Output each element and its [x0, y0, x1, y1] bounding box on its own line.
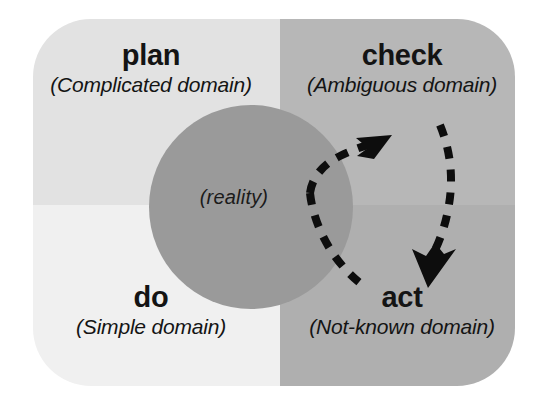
diagram-canvas: plan (Complicated domain) check (Ambiguo… [0, 0, 548, 407]
quadrant-title-check: check [278, 39, 526, 72]
quadrant-label-plan: plan (Complicated domain) [36, 39, 266, 96]
quadrant-title-plan: plan [36, 39, 266, 72]
reality-label: (reality) [149, 186, 353, 209]
quadrant-subtitle-plan: (Complicated domain) [36, 73, 266, 97]
quadrant-label-check: check (Ambiguous domain) [278, 39, 526, 96]
quadrant-subtitle-act: (Not-known domain) [278, 315, 526, 339]
quadrant-label-do: do (Simple domain) [36, 281, 266, 338]
quadrant-title-do: do [36, 281, 266, 314]
quadrant-subtitle-do: (Simple domain) [36, 315, 266, 339]
quadrant-title-act: act [278, 281, 526, 314]
quadrant-subtitle-check: (Ambiguous domain) [278, 73, 526, 97]
quadrant-label-act: act (Not-known domain) [278, 281, 526, 338]
